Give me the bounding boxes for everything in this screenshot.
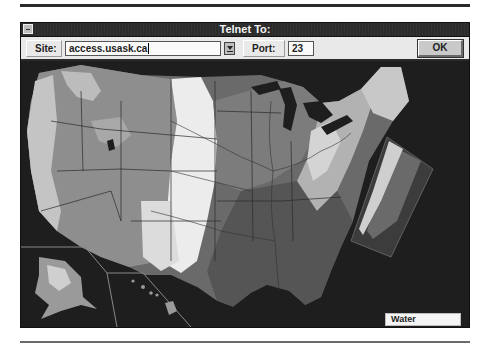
telnet-dialog-window: Telnet To: Site: access.usask.ca Port: 2… bbox=[20, 22, 470, 328]
relief-map-graphic bbox=[21, 61, 469, 327]
text-caret bbox=[148, 43, 149, 54]
window-title: Telnet To: bbox=[21, 23, 469, 36]
ok-button[interactable]: OK bbox=[418, 40, 463, 57]
port-label: Port: bbox=[243, 40, 285, 57]
us-relief-map: Water bbox=[21, 61, 469, 327]
site-label: Site: bbox=[26, 40, 62, 57]
top-rule bbox=[20, 4, 470, 7]
site-input-value: access.usask.ca bbox=[69, 43, 147, 54]
connection-toolbar: Site: access.usask.ca Port: 23 OK bbox=[21, 37, 469, 61]
title-bar[interactable]: Telnet To: bbox=[21, 23, 469, 37]
site-input[interactable]: access.usask.ca bbox=[65, 41, 221, 56]
port-input[interactable]: 23 bbox=[288, 41, 314, 56]
water-legend: Water bbox=[385, 313, 461, 326]
bottom-rule bbox=[20, 341, 470, 343]
site-dropdown-button[interactable] bbox=[224, 42, 235, 55]
dropdown-arrow-icon bbox=[227, 46, 233, 50]
